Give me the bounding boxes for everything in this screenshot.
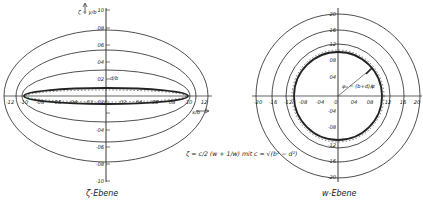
svg-text:-12: -12 bbox=[6, 99, 14, 105]
svg-text:10: 10 bbox=[97, 7, 104, 13]
svg-text:-20: -20 bbox=[328, 174, 337, 180]
svg-text:-08: -08 bbox=[96, 161, 105, 167]
svg-text:08: 08 bbox=[97, 25, 104, 31]
svg-text:-08: -08 bbox=[328, 124, 337, 130]
svg-text:16: 16 bbox=[400, 99, 407, 105]
svg-text:16: 16 bbox=[329, 27, 336, 33]
svg-text:04: 04 bbox=[136, 99, 143, 105]
svg-text:20: 20 bbox=[414, 99, 421, 105]
svg-text:12: 12 bbox=[385, 99, 392, 105]
svg-text:04: 04 bbox=[329, 74, 336, 80]
svg-text:-04: -04 bbox=[96, 127, 104, 133]
svg-text:-08: -08 bbox=[36, 99, 45, 105]
svg-text:20: 20 bbox=[329, 11, 336, 17]
zeta-axis-label: ζ = y/b bbox=[77, 9, 97, 16]
svg-text:08: 08 bbox=[169, 99, 176, 105]
x-axis-label: x/b bbox=[191, 109, 201, 115]
d-over-b-label: d/b bbox=[110, 75, 119, 81]
psi-annotation: ψ bbox=[371, 83, 375, 90]
svg-text:-02: -02 bbox=[96, 99, 104, 105]
svg-text:02: 02 bbox=[97, 76, 104, 82]
svg-text:08: 08 bbox=[329, 57, 336, 63]
svg-text:-20: -20 bbox=[254, 99, 263, 105]
svg-text:12: 12 bbox=[329, 41, 336, 47]
w-plane-caption: w-Ebene bbox=[322, 189, 357, 198]
svg-text:10: 10 bbox=[186, 99, 193, 105]
svg-text:-04: -04 bbox=[328, 108, 336, 114]
svg-text:06: 06 bbox=[97, 42, 104, 48]
figure-canvas: 10 08 06 04 02 -02 -04 -06 -08 -10 -12 -… bbox=[0, 0, 423, 201]
svg-text:-04: -04 bbox=[69, 99, 77, 105]
svg-text:04: 04 bbox=[97, 59, 104, 65]
svg-text:-12: -12 bbox=[328, 142, 336, 148]
svg-text:-10: -10 bbox=[20, 99, 29, 105]
zeta-plane-caption: ζ-Ebene bbox=[85, 189, 118, 198]
svg-text:-12: -12 bbox=[284, 99, 292, 105]
zeta-y-tick-labels: 10 08 06 04 02 -02 -04 -06 -08 -10 bbox=[96, 7, 105, 184]
w-x-tick-labels: -20 -16 -12 -08 -04 0 04 08 12 16 20 bbox=[254, 99, 421, 105]
phi0-annotation: φ₀ = (b+d)/c bbox=[342, 83, 375, 90]
svg-text:12: 12 bbox=[201, 99, 208, 105]
svg-text:-02: -02 bbox=[85, 99, 93, 105]
svg-text:-10: -10 bbox=[96, 178, 105, 184]
zeta-plane bbox=[4, 3, 212, 182]
svg-text:08: 08 bbox=[367, 99, 374, 105]
svg-text:-08: -08 bbox=[299, 99, 308, 105]
svg-text:-06: -06 bbox=[96, 144, 105, 150]
svg-text:-16: -16 bbox=[269, 99, 278, 105]
svg-text:02: 02 bbox=[120, 99, 127, 105]
svg-text:-16: -16 bbox=[328, 158, 337, 164]
svg-text:06: 06 bbox=[152, 99, 159, 105]
svg-text:-04: -04 bbox=[316, 99, 324, 105]
svg-text:04: 04 bbox=[351, 99, 358, 105]
svg-text:-06: -06 bbox=[53, 99, 62, 105]
w-y-tick-labels: 20 16 12 08 04 -04 -08 -12 -16 -20 bbox=[328, 11, 337, 180]
